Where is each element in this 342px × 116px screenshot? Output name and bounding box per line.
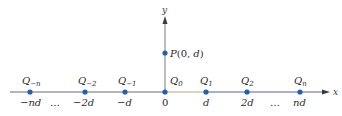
tick-label: 0 (162, 97, 168, 108)
tick-label: nd (293, 97, 306, 108)
y-axis-label: y (161, 5, 168, 15)
charge-dot (27, 89, 32, 94)
tick-label: −d (117, 97, 132, 108)
charge-line-diagram: x y P(0, d) Q−n −nd Q−2 −2d Q−1 −d Q0 0 … (0, 0, 342, 116)
ellipsis-right: … (270, 97, 280, 108)
charge-dot (203, 89, 208, 94)
tick-label: −2d (73, 97, 94, 108)
charge-dot (297, 89, 302, 94)
point-p-dot (162, 50, 167, 55)
charge-dot (122, 89, 127, 94)
tick-label: −nd (20, 97, 41, 108)
point-p-label: P(0, d) (169, 48, 204, 59)
charge-dot (162, 89, 167, 94)
tick-label: d (203, 97, 209, 108)
charge-label: Q2 (241, 75, 254, 88)
tick-label: 2d (240, 97, 254, 108)
charge-label: Q1 (200, 75, 213, 88)
charge-label: Q−n (22, 75, 41, 88)
charge-dot (244, 89, 249, 94)
charge-label: Q−1 (118, 75, 137, 88)
y-axis-arrow-icon (163, 16, 168, 24)
charge-label: Q0 (170, 75, 183, 88)
charge-label: Q−2 (78, 75, 97, 88)
x-axis (10, 90, 330, 95)
charge-dot (82, 89, 87, 94)
x-axis-label: x (333, 87, 338, 97)
x-axis-arrow-icon (322, 90, 330, 95)
charge-label: Qn (294, 75, 307, 88)
ellipsis-left: … (50, 97, 60, 108)
point-p-coords: (0, (177, 48, 194, 59)
